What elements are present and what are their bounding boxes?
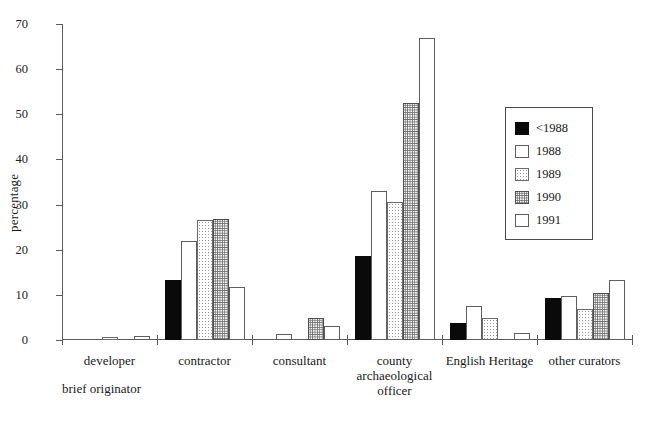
legend-swatch-icon xyxy=(515,214,529,227)
x-tick-mark xyxy=(62,335,63,345)
legend-label: 1989 xyxy=(536,168,561,181)
bar-developer-1989 xyxy=(102,337,118,340)
y-tick-mark xyxy=(56,205,63,206)
legend-label: 1988 xyxy=(536,145,561,158)
bar-other-curators-1990 xyxy=(593,293,609,340)
x-category-label-line: archaeological xyxy=(317,368,472,383)
x-tick-mark xyxy=(632,335,633,345)
bar-contractor-1988 xyxy=(181,241,197,340)
y-tick-label: 40 xyxy=(0,153,28,166)
legend-label: <1988 xyxy=(536,122,568,135)
bar-contractor-1989 xyxy=(197,220,213,340)
x-tick-mark xyxy=(347,335,348,345)
legend-item: 1990 xyxy=(515,186,592,209)
y-axis-line xyxy=(62,24,63,340)
bar-consultant-1990 xyxy=(308,318,324,340)
y-tick-label: 10 xyxy=(0,289,28,302)
bar-chart: percentage 010203040506070 developercont… xyxy=(0,0,660,423)
y-tick-label: 50 xyxy=(0,108,28,121)
bar-contractor-1990 xyxy=(213,219,229,340)
legend-swatch-icon xyxy=(515,168,529,181)
bar-english-heritage-1989 xyxy=(482,318,498,340)
bar-consultant-1991 xyxy=(324,326,340,340)
bar-other-curators-1991 xyxy=(609,280,625,340)
y-tick-label: 30 xyxy=(0,199,28,212)
x-axis-title: brief originator xyxy=(62,381,141,397)
y-tick-label: 0 xyxy=(0,334,28,347)
legend-item: 1989 xyxy=(515,163,592,186)
y-tick-mark xyxy=(56,69,63,70)
bar-other-curators-1989 xyxy=(577,309,593,340)
bar-developer-1991 xyxy=(134,336,150,340)
bar-county-archaeological-officer-1989 xyxy=(387,202,403,340)
y-tick-label: 70 xyxy=(0,18,28,31)
bar-county-archaeological-officer-lt1988 xyxy=(355,256,371,340)
y-tick-mark xyxy=(56,295,63,296)
legend-swatch-icon xyxy=(515,122,529,135)
bar-other-curators-1988 xyxy=(561,296,577,340)
y-tick-label: 60 xyxy=(0,63,28,76)
x-category-label-line: officer xyxy=(317,383,472,398)
x-tick-mark xyxy=(252,335,253,345)
x-tick-mark xyxy=(157,335,158,345)
legend-item: <1988 xyxy=(515,117,592,140)
bar-other-curators-lt1988 xyxy=(545,298,561,340)
bar-contractor-1991 xyxy=(229,287,245,340)
y-tick-mark xyxy=(56,159,63,160)
legend-swatch-icon xyxy=(515,191,529,204)
bar-contractor-lt1988 xyxy=(165,280,181,340)
y-tick-mark xyxy=(56,250,63,251)
legend-label: 1991 xyxy=(536,214,561,227)
y-tick-mark xyxy=(56,114,63,115)
x-tick-mark xyxy=(442,335,443,345)
legend-label: 1990 xyxy=(536,191,561,204)
y-tick-label: 20 xyxy=(0,244,28,257)
bar-county-archaeological-officer-1991 xyxy=(419,38,435,340)
bar-county-archaeological-officer-1988 xyxy=(371,191,387,340)
x-tick-mark xyxy=(537,335,538,345)
bar-english-heritage-1991 xyxy=(514,333,530,340)
chart-legend: <19881988198919901991 xyxy=(505,107,593,240)
legend-item: 1988 xyxy=(515,140,592,163)
legend-item: 1991 xyxy=(515,209,592,232)
legend-swatch-icon xyxy=(515,145,529,158)
bar-english-heritage-lt1988 xyxy=(450,323,466,340)
x-category-label: other curators xyxy=(507,353,660,368)
bar-county-archaeological-officer-1990 xyxy=(403,103,419,340)
x-category-label-line: other curators xyxy=(507,353,660,368)
bar-english-heritage-1988 xyxy=(466,306,482,340)
bar-consultant-1988 xyxy=(276,334,292,340)
y-tick-mark xyxy=(56,24,63,25)
